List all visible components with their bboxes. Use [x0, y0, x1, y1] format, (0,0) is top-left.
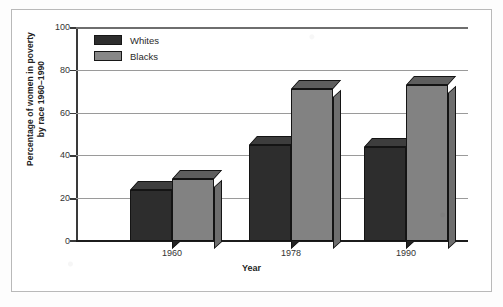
y-tick-label-80: 80 — [44, 65, 70, 75]
y-axis-title-line-1: Percentage of women in poverty — [25, 0, 36, 199]
legend-swatch-blacks — [94, 51, 122, 61]
legend-item-whites: Whites — [94, 33, 159, 47]
y-tick-mark-100 — [70, 27, 76, 29]
bar-front-face — [130, 190, 172, 241]
legend-item-blacks: Blacks — [94, 49, 159, 63]
gridline-100 — [76, 27, 468, 29]
y-tick-label-60: 60 — [44, 108, 70, 118]
x-axis-title: Year — [0, 263, 503, 273]
bar-front-face — [364, 147, 406, 241]
y-axis-line — [76, 27, 78, 241]
chart-legend: Whites Blacks — [94, 33, 159, 65]
bar-top-face — [172, 170, 222, 179]
y-tick-label-40: 40 — [44, 150, 70, 160]
y-tick-label-0: 0 — [44, 236, 70, 246]
bar-top-face — [291, 80, 341, 89]
bar-blacks-1990 — [406, 85, 448, 241]
y-tick-mark-60 — [70, 113, 76, 115]
y-tick-mark-80 — [70, 70, 76, 72]
x-tick-label-1990: 1990 — [376, 248, 436, 258]
bar-top-face — [406, 76, 456, 85]
bar-front-face — [172, 179, 214, 241]
bar-blacks-1960 — [172, 179, 214, 241]
legend-swatch-whites — [94, 35, 122, 45]
bar-whites-1990 — [364, 147, 406, 241]
bar-front-face — [249, 145, 291, 241]
x-tick-label-1960: 1960 — [142, 248, 202, 258]
chart-figure: Percentage of women in poverty by race 1… — [0, 0, 503, 307]
bar-whites-1978 — [249, 145, 291, 241]
plot-area: Whites Blacks — [76, 27, 468, 241]
bar-front-face — [291, 89, 333, 241]
legend-label-whites: Whites — [130, 35, 159, 46]
x-tick-label-1978: 1978 — [261, 248, 321, 258]
y-tick-mark-20 — [70, 198, 76, 200]
legend-label-blacks: Blacks — [130, 51, 158, 62]
bar-blacks-1978 — [291, 89, 333, 241]
gridline-80 — [76, 70, 468, 71]
y-tick-label-100: 100 — [44, 22, 70, 32]
y-tick-mark-40 — [70, 155, 76, 157]
bar-side-face — [214, 180, 222, 249]
bar-side-face — [333, 90, 341, 249]
y-tick-label-20: 20 — [44, 193, 70, 203]
bar-whites-1960 — [130, 190, 172, 241]
bar-front-face — [406, 85, 448, 241]
bar-side-face — [448, 86, 456, 249]
